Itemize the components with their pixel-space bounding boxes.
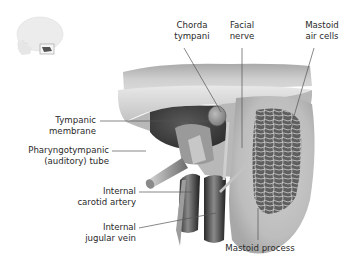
skull-orientation-thumbnail: [17, 17, 63, 55]
temporal-bone-specimen: [118, 64, 315, 254]
label-internal-carotid-artery: Internal carotid artery: [56, 186, 136, 208]
label-mastoid-air-cells: Mastoid air cells: [296, 20, 348, 42]
label-tympanic-membrane: Tympanic membrane: [30, 115, 96, 137]
label-pharyngotympanic-tube: Pharyngotympanic (auditory) tube: [10, 145, 109, 167]
label-mastoid-process: Mastoid process: [218, 243, 302, 254]
label-chorda-tympani: Chorda tympani: [166, 20, 218, 42]
label-facial-nerve: Facial nerve: [222, 20, 262, 42]
label-internal-jugular-vein: Internal jugular vein: [56, 222, 136, 244]
